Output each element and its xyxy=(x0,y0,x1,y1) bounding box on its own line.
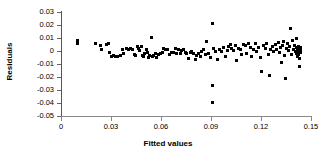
x-tick-label: 0.03 xyxy=(104,123,119,131)
data-point xyxy=(297,53,300,56)
data-point xyxy=(166,48,169,51)
data-point xyxy=(155,56,158,59)
data-point xyxy=(222,46,225,49)
data-point xyxy=(295,37,298,40)
data-point xyxy=(268,74,271,77)
data-point xyxy=(247,42,250,45)
data-point xyxy=(291,39,294,42)
y-tick-label: 0.02 xyxy=(39,21,54,29)
y-tick-mark xyxy=(57,90,61,91)
x-tick-mark xyxy=(311,117,312,121)
x-axis-title: Fitted values xyxy=(0,139,336,148)
data-point xyxy=(259,56,262,59)
data-point xyxy=(245,52,248,55)
data-point xyxy=(187,57,190,60)
data-point xyxy=(265,42,268,45)
x-tick-label: 0.09 xyxy=(204,123,219,131)
data-point xyxy=(140,45,143,48)
y-tick-label: 0.03 xyxy=(39,8,54,16)
data-point xyxy=(290,53,293,56)
x-tick-label: 0.15 xyxy=(304,123,319,131)
y-axis-title: Residuals xyxy=(5,27,14,97)
plot-area xyxy=(61,12,311,116)
data-point xyxy=(211,84,214,87)
data-point xyxy=(142,55,145,58)
y-tick-mark xyxy=(57,51,61,52)
x-tick-label: 0.06 xyxy=(154,123,169,131)
data-point xyxy=(108,51,111,54)
data-point xyxy=(282,40,285,43)
data-point xyxy=(287,49,290,52)
data-point xyxy=(250,55,253,58)
data-point xyxy=(122,52,125,55)
data-point xyxy=(211,101,214,104)
data-point xyxy=(283,54,286,57)
data-point xyxy=(205,40,208,43)
x-tick-mark xyxy=(211,117,212,121)
x-tick-mark xyxy=(261,117,262,121)
data-point xyxy=(207,52,210,55)
data-point xyxy=(278,51,281,54)
data-point xyxy=(202,48,205,51)
data-point xyxy=(264,47,267,50)
data-point xyxy=(99,44,102,47)
data-point xyxy=(277,41,280,44)
data-point xyxy=(150,36,153,39)
data-point xyxy=(211,22,214,25)
data-point xyxy=(220,50,223,53)
data-point xyxy=(121,48,124,51)
y-tick-mark xyxy=(57,77,61,78)
y-tick-mark xyxy=(57,25,61,26)
data-point xyxy=(94,42,97,45)
y-tick-label: -0.01 xyxy=(37,60,54,68)
y-tick-mark xyxy=(57,103,61,104)
data-point xyxy=(229,43,232,46)
y-tick-label: -0.05 xyxy=(37,112,54,120)
y-tick-label: -0.02 xyxy=(37,73,54,81)
y-tick-mark xyxy=(57,64,61,65)
data-point xyxy=(289,27,292,30)
x-tick-mark xyxy=(161,117,162,121)
x-tick-mark xyxy=(111,117,112,121)
data-point xyxy=(175,52,178,55)
data-point xyxy=(107,42,110,45)
data-point xyxy=(214,50,217,53)
data-point xyxy=(100,48,103,51)
data-point xyxy=(299,49,302,52)
y-tick-mark xyxy=(57,12,61,13)
data-point xyxy=(216,58,219,61)
data-point xyxy=(255,50,258,53)
data-point xyxy=(284,77,287,80)
x-tick-mark xyxy=(61,117,62,121)
y-axis-line xyxy=(61,11,62,117)
x-axis-line xyxy=(61,116,312,117)
data-point xyxy=(267,53,270,56)
data-point xyxy=(161,51,164,54)
y-tick-label: 0.01 xyxy=(39,34,54,42)
data-point xyxy=(257,46,260,49)
data-point xyxy=(179,52,182,55)
data-point xyxy=(209,56,212,59)
data-point xyxy=(131,48,134,51)
data-point xyxy=(76,39,79,45)
data-point xyxy=(260,70,263,73)
y-tick-mark xyxy=(57,38,61,39)
data-point xyxy=(138,49,141,52)
x-tick-label: 0 xyxy=(59,123,63,131)
data-point xyxy=(235,59,238,62)
data-point xyxy=(224,55,227,58)
data-point xyxy=(280,61,283,64)
data-point xyxy=(185,52,188,55)
residual-scatter-chart: 0.030.020.010-0.01-0.02-0.03-0.04-0.05 0… xyxy=(0,0,336,162)
data-point xyxy=(298,57,301,60)
data-point xyxy=(281,44,284,47)
y-tick-label: -0.03 xyxy=(37,86,54,94)
data-point xyxy=(226,49,229,52)
y-tick-label: 0 xyxy=(50,47,54,55)
data-point xyxy=(298,65,301,68)
data-point xyxy=(232,49,235,52)
data-point xyxy=(146,51,149,54)
data-point xyxy=(134,54,137,57)
data-point xyxy=(239,48,242,51)
x-tick-label: 0.12 xyxy=(254,123,269,131)
